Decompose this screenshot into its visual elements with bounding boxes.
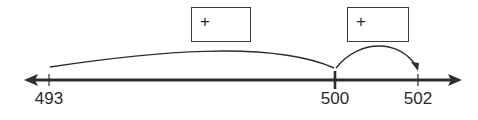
jump-arc-1 bbox=[50, 51, 334, 68]
jump-arc-2 bbox=[336, 46, 416, 68]
plus-sign: + bbox=[200, 13, 210, 30]
tick-label-493: 493 bbox=[35, 89, 63, 109]
jump-arrowhead-icon bbox=[411, 62, 419, 71]
answer-box-jump-2[interactable]: + bbox=[347, 7, 409, 42]
answer-box-jump-1[interactable]: + bbox=[191, 7, 251, 42]
plus-sign: + bbox=[356, 13, 366, 30]
tick-label-502: 502 bbox=[404, 89, 432, 109]
number-line-diagram: + + 493 500 502 bbox=[0, 0, 478, 120]
tick-label-500: 500 bbox=[321, 89, 349, 109]
